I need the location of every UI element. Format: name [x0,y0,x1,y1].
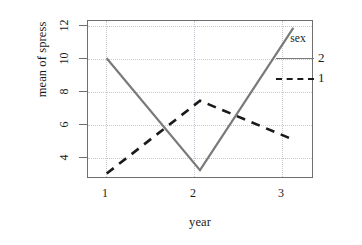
x-axis-title: year [87,215,313,230]
x-tick-label-2: 2 [180,186,206,201]
x-tick-label-1: 1 [92,186,118,201]
series-lines-layer [88,21,312,177]
y-tick-label-10: 10 [57,47,72,71]
legend-title: sex [281,32,315,44]
y-tick-label-8: 8 [57,80,72,104]
legend-key-solid [276,58,314,59]
y-tick-mark [79,157,87,158]
y-tick-mark [79,91,87,92]
y-tick-label-12: 12 [57,14,72,38]
plot-area [87,20,313,178]
y-tick-label-6: 6 [57,113,72,137]
y-tick-mark [79,25,87,26]
legend-key-dashed [276,78,314,80]
legend-label-sex-1: 1 [318,70,338,86]
y-axis-title: mean of spress [35,0,50,140]
series-line-sex-1 [107,101,294,174]
series-line-sex-2 [107,28,294,170]
interaction-plot-figure: mean of spress 12 10 8 6 4 sex 2 1 1 2 3… [0,0,362,245]
y-tick-mark [79,58,87,59]
y-tick-label-4: 4 [57,146,72,170]
legend-label-sex-2: 2 [318,50,338,66]
y-tick-mark [79,124,87,125]
x-tick-label-3: 3 [268,186,294,201]
